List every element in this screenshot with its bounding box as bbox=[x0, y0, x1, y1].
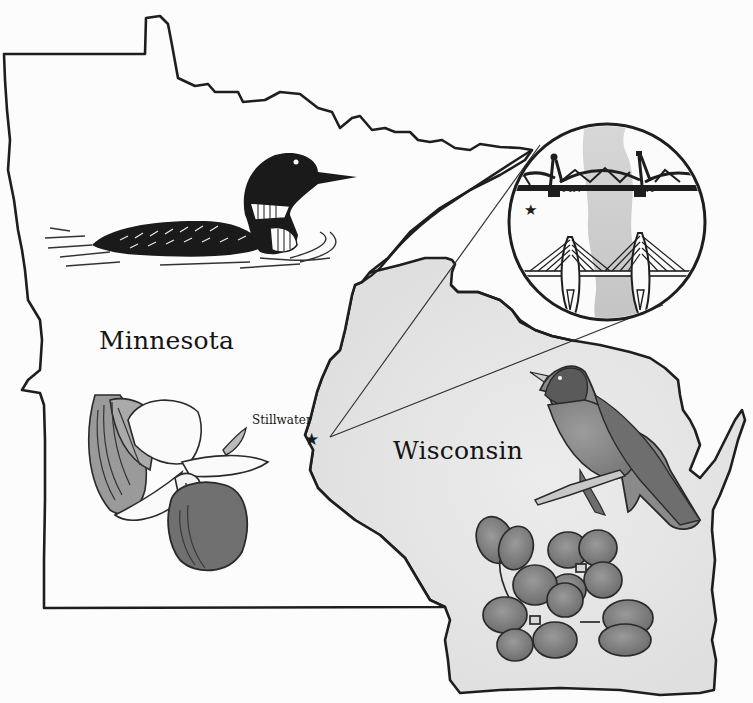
wisconsin-label: Wisconsin bbox=[393, 436, 523, 465]
stillwater-star-icon[interactable]: ★ bbox=[304, 430, 319, 449]
inset-star-icon: ★ bbox=[524, 202, 537, 218]
stillwater-label[interactable]: Stillwater bbox=[252, 413, 312, 427]
minnesota-label: Minnesota bbox=[99, 326, 234, 355]
inset-label-mn: MN bbox=[562, 183, 581, 194]
inset-label-wi: WI bbox=[640, 183, 654, 194]
